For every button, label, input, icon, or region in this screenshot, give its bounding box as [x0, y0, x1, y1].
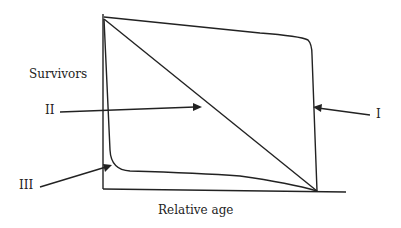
survivorship-diagram: [0, 0, 401, 228]
curve-II: [104, 19, 317, 191]
arrowhead-II-icon: [193, 103, 202, 111]
x-axis-label: Relative age: [158, 203, 233, 217]
curve-I-label: I: [376, 107, 381, 121]
curve-III-label: III: [19, 178, 33, 192]
arrow-II: [60, 107, 195, 112]
y-axis-label: Survivors: [29, 67, 87, 81]
arrow-I: [318, 108, 370, 115]
arrowhead-III-icon: [103, 164, 112, 172]
arrow-III: [40, 167, 106, 187]
curve-II-label: II: [45, 103, 54, 117]
